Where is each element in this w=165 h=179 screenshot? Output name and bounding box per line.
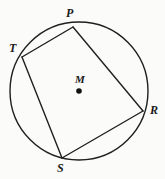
chord-s-t bbox=[22, 57, 62, 158]
geometry-canvas bbox=[0, 0, 165, 179]
geometry-figure: P T S R M bbox=[0, 0, 165, 179]
vertex-label-s: S bbox=[57, 162, 64, 174]
chord-r-s bbox=[62, 111, 143, 158]
center-point-dot bbox=[76, 88, 82, 94]
center-label-m: M bbox=[75, 74, 85, 85]
chord-p-r bbox=[73, 27, 143, 111]
vertex-label-p: P bbox=[66, 7, 73, 19]
vertex-label-t: T bbox=[9, 42, 16, 54]
vertex-label-r: R bbox=[150, 104, 158, 116]
